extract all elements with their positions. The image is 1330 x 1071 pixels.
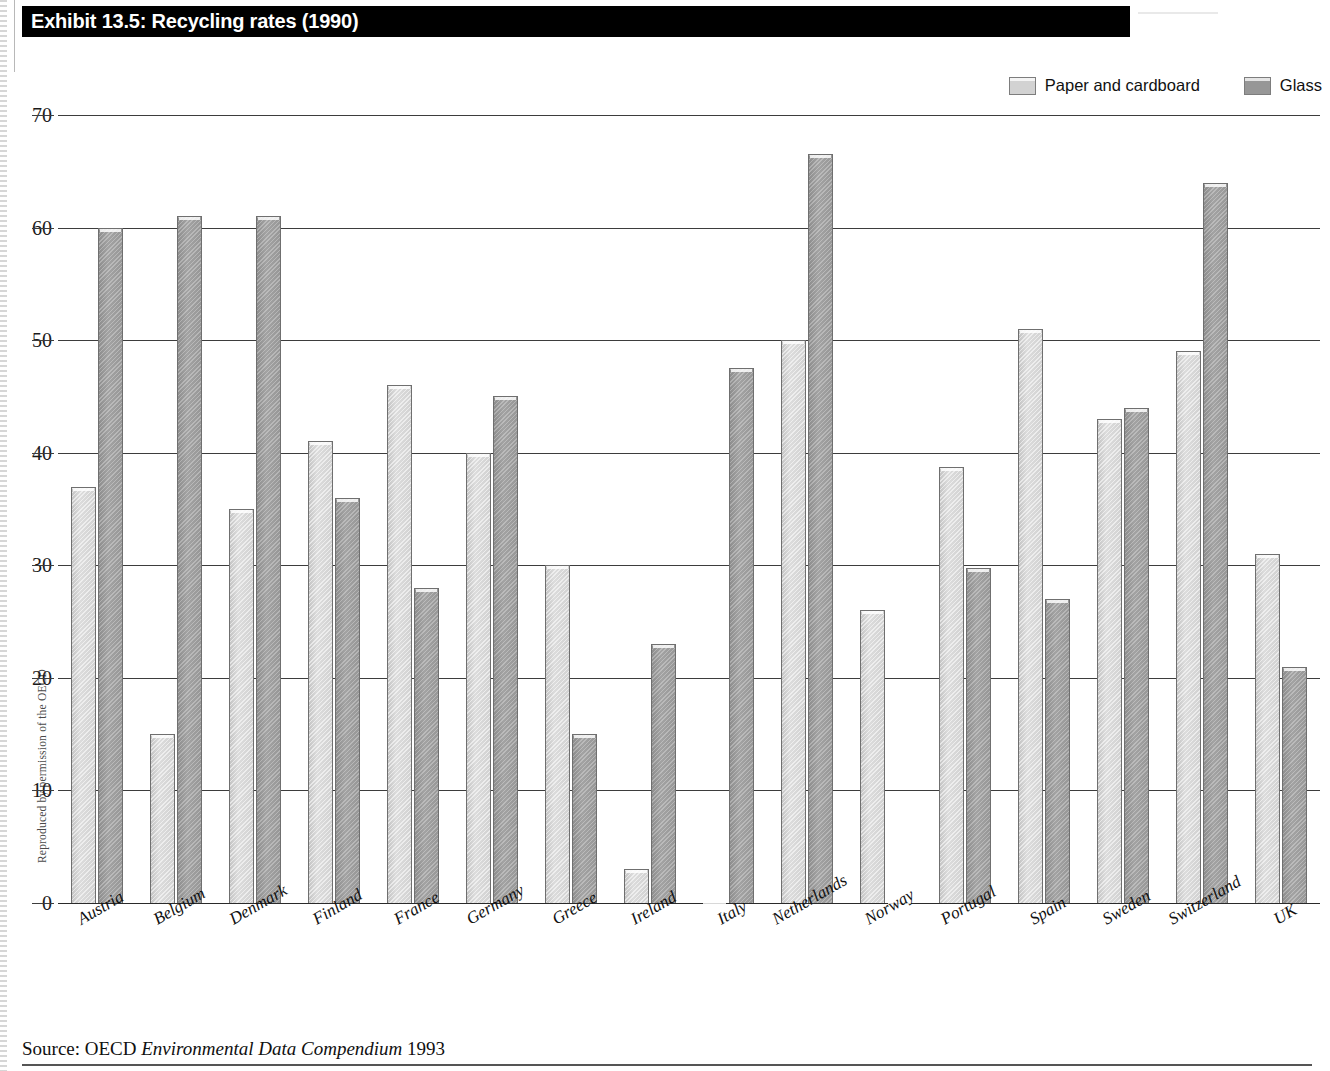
y-axis-tick-mark-20 xyxy=(32,678,54,679)
x-axis-label-cell-portugal: Portugal xyxy=(926,906,1005,1026)
bar-group-norway xyxy=(847,115,926,903)
chart-plot-area: 010203040506070 xyxy=(58,115,1320,903)
bar-ireland-paper xyxy=(624,869,649,903)
x-axis-label-cell-italy: Italy xyxy=(689,906,768,1026)
bar-denmark-glass xyxy=(256,216,281,903)
bar-france-glass xyxy=(414,588,439,903)
bar-group-italy xyxy=(689,115,768,903)
bar-group-france xyxy=(374,115,453,903)
legend-swatch-glass xyxy=(1244,77,1271,95)
bar-greece-paper xyxy=(545,565,570,903)
bar-finland-paper xyxy=(308,441,333,903)
bar-italy-glass xyxy=(729,368,754,903)
chart-legend: Paper and cardboardGlass xyxy=(1009,76,1322,95)
bar-norway-paper xyxy=(860,610,885,903)
footer-rule xyxy=(22,1064,1312,1066)
y-axis-tick-mark-30 xyxy=(32,565,54,566)
bar-group-switzerland xyxy=(1162,115,1241,903)
bar-group-finland xyxy=(295,115,374,903)
bar-netherlands-glass xyxy=(808,154,833,903)
bar-group-netherlands xyxy=(768,115,847,903)
x-axis-label-cell-denmark: Denmark xyxy=(216,906,295,1026)
legend-item-glass: Glass xyxy=(1244,76,1322,95)
page-title: Exhibit 13.5: Recycling rates (1990) xyxy=(22,10,358,33)
title-bar-scan-gap xyxy=(1130,6,1312,37)
exhibit-page: Reproduced by permission of the OECD Exh… xyxy=(0,0,1330,1071)
x-axis-label-cell-belgium: Belgium xyxy=(137,906,216,1026)
source-prefix: Source: OECD xyxy=(22,1038,137,1059)
legend-label-glass: Glass xyxy=(1280,76,1322,95)
bar-denmark-paper xyxy=(229,509,254,903)
legend-swatch-paper xyxy=(1009,77,1036,95)
exhibit-title-bar: Exhibit 13.5: Recycling rates (1990) xyxy=(22,6,1312,37)
bar-austria-paper xyxy=(71,487,96,904)
bar-group-uk xyxy=(1241,115,1320,903)
bar-group-greece xyxy=(531,115,610,903)
y-axis-tick-mark-60 xyxy=(32,228,54,229)
bar-austria-glass xyxy=(98,228,123,903)
legend-item-paper: Paper and cardboard xyxy=(1009,76,1200,95)
x-axis-label-cell-austria: Austria xyxy=(58,906,137,1026)
source-publication: Environmental Data Compendium xyxy=(141,1038,402,1059)
bar-uk-paper xyxy=(1255,554,1280,903)
bar-group-sweden xyxy=(1083,115,1162,903)
bar-switzerland-glass xyxy=(1203,183,1228,903)
bar-spain-paper xyxy=(1018,329,1043,903)
scan-rule xyxy=(14,0,15,72)
bar-group-spain xyxy=(1005,115,1084,903)
bar-group-denmark xyxy=(216,115,295,903)
bar-group-germany xyxy=(452,115,531,903)
y-axis-tick-mark-10 xyxy=(32,790,54,791)
x-axis-label-cell-finland: Finland xyxy=(295,906,374,1026)
x-axis-label-cell-spain: Spain xyxy=(1005,906,1084,1026)
bar-belgium-glass xyxy=(177,216,202,903)
x-axis-label-cell-greece: Greece xyxy=(531,906,610,1026)
y-axis-tick-mark-0 xyxy=(32,903,54,904)
x-axis-label-cell-norway: Norway xyxy=(847,906,926,1026)
x-axis-label-cell-uk: UK xyxy=(1241,906,1320,1026)
bar-portugal-glass xyxy=(966,568,991,903)
source-note: Source: OECD Environmental Data Compendi… xyxy=(22,1038,445,1060)
x-axis-labels: AustriaBelgiumDenmarkFinlandFranceGerman… xyxy=(58,906,1320,1026)
bar-uk-glass xyxy=(1282,667,1307,903)
bar-groups xyxy=(58,115,1320,903)
y-axis-tick-mark-70 xyxy=(32,115,54,116)
y-axis-tick-mark-50 xyxy=(32,340,54,341)
bar-group-portugal xyxy=(926,115,1005,903)
x-axis-label-uk: UK xyxy=(1270,900,1300,929)
x-axis-label-cell-france: France xyxy=(374,906,453,1026)
bar-germany-paper xyxy=(466,453,491,903)
bar-finland-glass xyxy=(335,498,360,903)
source-year: 1993 xyxy=(407,1038,445,1059)
bar-sweden-paper xyxy=(1097,419,1122,903)
bar-portugal-paper xyxy=(939,467,964,903)
legend-label-paper: Paper and cardboard xyxy=(1045,76,1200,95)
x-axis-label-cell-germany: Germany xyxy=(452,906,531,1026)
bar-group-ireland xyxy=(610,115,689,903)
x-axis-label-cell-ireland: Ireland xyxy=(610,906,689,1026)
bar-greece-glass xyxy=(572,734,597,903)
bar-sweden-glass xyxy=(1124,408,1149,903)
bar-germany-glass xyxy=(493,396,518,903)
bar-group-austria xyxy=(58,115,137,903)
x-axis-label-cell-switzerland: Switzerland xyxy=(1162,906,1241,1026)
x-axis-label-cell-sweden: Sweden xyxy=(1083,906,1162,1026)
x-axis-label-cell-netherlands: Netherlands xyxy=(768,906,847,1026)
bar-belgium-paper xyxy=(150,734,175,903)
y-axis-tick-mark-40 xyxy=(32,453,54,454)
bar-spain-glass xyxy=(1045,599,1070,903)
bar-france-paper xyxy=(387,385,412,903)
bar-ireland-glass xyxy=(651,644,676,903)
bar-netherlands-paper xyxy=(781,340,806,903)
bar-switzerland-paper xyxy=(1176,351,1201,903)
bar-group-belgium xyxy=(137,115,216,903)
